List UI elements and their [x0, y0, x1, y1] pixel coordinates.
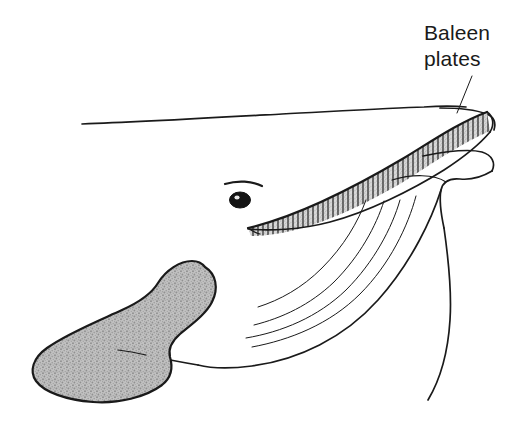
- throat-groove-lines: [246, 196, 416, 347]
- baleen-plates-label: Baleen plates: [424, 21, 490, 70]
- baleen-plates-label-line1: Baleen: [424, 21, 490, 44]
- body-right-edge: [428, 171, 492, 400]
- baleen-hatch-lines: [253, 100, 488, 245]
- eye-highlight: [234, 196, 239, 200]
- dorsal-back-line: [82, 106, 466, 124]
- baleen-plate-band: [248, 100, 493, 245]
- baleen-plates-label-line2: plates: [424, 47, 481, 70]
- whale-diagram-figure: Baleen plates: [0, 0, 524, 445]
- whale-illustration: Baleen plates: [0, 0, 524, 445]
- pectoral-flipper: [33, 261, 240, 402]
- eye: [230, 192, 251, 208]
- flipper-fill: [33, 261, 216, 402]
- brow-line: [225, 182, 262, 186]
